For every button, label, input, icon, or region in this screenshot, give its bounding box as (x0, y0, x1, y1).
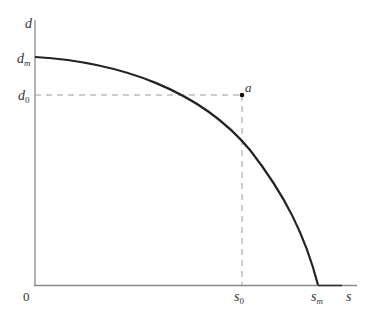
diagram: a d s 0 dm d0 s0 sm (0, 0, 375, 315)
d0-label: d0 (18, 88, 30, 105)
point-a-marker (240, 93, 245, 98)
sm-label: sm (311, 289, 323, 306)
point-a-label: a (245, 80, 252, 95)
origin-label: 0 (23, 289, 30, 304)
s0-label: s0 (234, 289, 244, 306)
dm-label: dm (17, 51, 31, 68)
y-axis-label: d (25, 16, 33, 31)
frontier-curve (35, 57, 318, 285)
x-axis-label: s (346, 289, 352, 304)
